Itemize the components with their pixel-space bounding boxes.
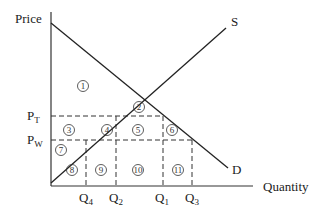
region-2: 2 (137, 102, 142, 112)
region-8: 8 (70, 165, 75, 175)
region-3: 3 (67, 125, 72, 135)
tariff-diagram: Price Quantity S D PT PW Q4 Q2 Q1 Q3 1 2… (0, 0, 326, 216)
supply-label: S (231, 14, 238, 29)
region-10: 10 (134, 165, 144, 175)
q3-label: Q3 (185, 190, 199, 207)
demand-curve (51, 23, 228, 168)
region-7: 7 (59, 145, 64, 155)
region-1: 1 (81, 81, 86, 91)
q2-label: Q2 (109, 190, 123, 207)
region-6: 6 (170, 125, 175, 135)
price-tariff-label: PT (27, 108, 40, 125)
x-axis-label: Quantity (263, 179, 309, 194)
region-11: 11 (174, 165, 183, 175)
region-4: 4 (105, 125, 110, 135)
y-axis-label: Price (15, 11, 42, 26)
q1-label: Q1 (155, 190, 169, 207)
region-9: 9 (99, 165, 104, 175)
price-world-label: PW (27, 132, 43, 149)
demand-label: D (232, 162, 241, 177)
region-5: 5 (136, 125, 141, 135)
q4-label: Q4 (79, 190, 93, 207)
